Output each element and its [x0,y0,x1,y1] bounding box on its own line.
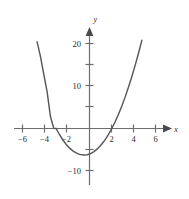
parabola-figure: x y −6 −4 −2 2 4 6 20 10 −10 [0,0,189,199]
x-tick-label-pos6: 6 [153,134,157,144]
x-axis-arrow-icon [163,125,172,133]
x-axis-label: x [173,125,178,134]
y-tick-label-20: 20 [73,39,82,49]
x-tick-label-neg4: −4 [40,134,50,144]
x-tick-label-pos2: 2 [109,134,113,144]
plot-canvas: x y −6 −4 −2 2 4 6 20 10 −10 [0,0,189,199]
x-tick-label-neg2: −2 [62,134,71,144]
y-tick-label-10: 10 [73,81,82,91]
y-axis-label: y [93,15,98,24]
x-tick-label-neg6: −6 [18,134,27,144]
x-tick-label-pos4: 4 [131,134,136,144]
y-axis-arrow-icon [86,27,94,36]
y-tick-label-neg10: −10 [68,166,81,176]
